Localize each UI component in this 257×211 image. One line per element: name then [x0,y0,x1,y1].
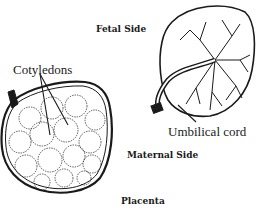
fetal-side-label: Fetal Side [96,24,146,34]
maternal-side-disc [2,82,112,193]
cotyledons-label: Cotyledons [13,62,72,78]
umbilical-cord-label: Umbilical cord [168,124,246,140]
diagram-title: Placenta [121,196,165,206]
fetal-side-disc [151,6,255,116]
placenta-diagram: Fetal Side Cotyledons Umbilical cord Mat… [0,0,257,211]
umbilical-cord-pointer-line [178,105,196,122]
maternal-side-label: Maternal Side [127,150,198,160]
